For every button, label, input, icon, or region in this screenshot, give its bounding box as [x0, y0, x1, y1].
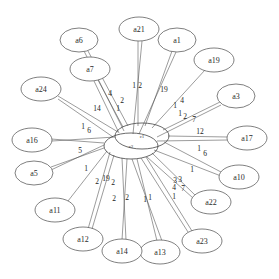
node-label: a6: [75, 36, 83, 45]
edge-labels-group: 121914127121613347111222219151614412: [78, 81, 207, 204]
edge-weight-label: 2: [112, 194, 116, 203]
node-label: a7: [86, 65, 94, 74]
node-label: a22: [205, 198, 217, 207]
graph-node-a23[interactable]: a23: [182, 229, 222, 253]
edge-weight-label: 1: [148, 193, 152, 202]
graph-node-a19[interactable]: a19: [194, 48, 234, 72]
node-label: a24: [35, 85, 47, 94]
node-label: a16: [26, 136, 38, 145]
node-label: a12: [77, 235, 89, 244]
edge-weight-label: 3: [178, 175, 182, 184]
edge-weight-label: 1: [172, 192, 176, 201]
edge-weight-label: 1: [173, 101, 177, 110]
graph-edge: [132, 159, 162, 241]
graph-edge: [147, 157, 193, 198]
edge-weight-label: 12: [196, 127, 204, 136]
edge-weight-label: 4: [172, 183, 176, 192]
graph-canvas: 121914127121613347111222219151614412 a21…: [0, 0, 279, 279]
graph-edge: [58, 99, 113, 137]
graph-edge: [68, 151, 107, 201]
node-label: a3: [232, 92, 240, 101]
graph-edge: [168, 136, 228, 137]
edge-weight-label: 1: [81, 122, 85, 131]
graph-node-a3[interactable]: a3: [217, 84, 255, 108]
graph-node-a21[interactable]: a21: [119, 17, 159, 41]
edge-weight-label: 5: [78, 146, 82, 155]
edge-weight-label: 2: [183, 112, 187, 121]
node-label: a17: [241, 134, 253, 143]
graph-node-a6[interactable]: a6: [60, 28, 98, 52]
graph-edge: [157, 105, 221, 137]
node-label: a5: [30, 169, 38, 178]
edge-weight-label: 1: [143, 195, 147, 204]
graph-node-a10[interactable]: a10: [219, 165, 259, 189]
graph-node-a1[interactable]: a1: [158, 28, 196, 52]
edge-weight-label: 6: [203, 149, 207, 158]
node-label: a11: [49, 206, 60, 215]
edge-weight-label: 19: [160, 85, 168, 94]
graph-edge: [88, 152, 110, 229]
edge-weight-label: 1: [116, 104, 120, 113]
node-label: a14: [116, 247, 128, 256]
edge-weight-label: 4: [108, 89, 112, 98]
graph-node-a16[interactable]: a16: [12, 128, 52, 152]
node-label: a19: [208, 56, 220, 65]
graph-node-a17[interactable]: a17: [227, 126, 267, 150]
graph-node-a5[interactable]: a5: [15, 161, 53, 185]
edge-weight-label: 2: [138, 81, 142, 90]
node-label: a10: [233, 173, 245, 182]
edge-weight-label: 1: [84, 164, 88, 173]
nodes-group: a21a1a19a3a17a10a22a23a13a14a12a11a5a16a…: [12, 17, 267, 264]
center-node-label: c2: [129, 144, 134, 149]
edge-weight-label: 2: [111, 178, 115, 187]
edge-weight-label: 2: [120, 96, 124, 105]
node-label: a1: [173, 36, 181, 45]
edge-weight-label: 2: [95, 177, 99, 186]
edge-weight-label: 1: [132, 81, 136, 90]
edge-weight-label: 1: [178, 109, 182, 118]
edge-weight-label: 6: [87, 126, 91, 135]
graph-node-a12[interactable]: a12: [63, 227, 103, 251]
graph-node-a14[interactable]: a14: [102, 239, 142, 263]
edge-weight-label: 1: [197, 144, 201, 153]
graph-edge: [145, 51, 172, 126]
edge-weight-label: 7: [192, 115, 196, 124]
center-node-c2[interactable]: c2: [104, 133, 158, 159]
node-label: a13: [154, 248, 166, 257]
node-label: a23: [196, 237, 208, 246]
graph-edge: [146, 157, 192, 231]
network-diagram: 121914127121613347111222219151614412 a21…: [0, 0, 279, 279]
graph-node-a24[interactable]: a24: [21, 77, 61, 101]
edge-weight-label: 7: [181, 184, 185, 193]
edge-weight-label: 4: [180, 96, 184, 105]
graph-node-a13[interactable]: a13: [140, 240, 180, 264]
graph-node-a7[interactable]: a7: [70, 57, 110, 81]
edge-weight-label: 1: [190, 165, 194, 174]
edge-weight-label: 19: [102, 174, 110, 183]
edge-weight-label: 2: [125, 193, 129, 202]
graph-edge: [152, 70, 205, 128]
graph-edge: [52, 137, 115, 141]
graph-node-a22[interactable]: a22: [191, 190, 231, 214]
graph-node-a11[interactable]: a11: [35, 198, 75, 222]
node-label: a21: [133, 25, 145, 34]
edge-weight-label: 14: [93, 104, 101, 113]
